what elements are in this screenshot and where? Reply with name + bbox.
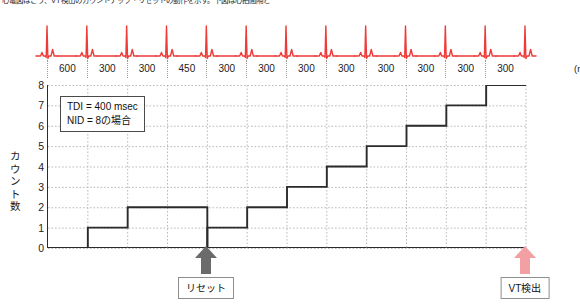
figure-caption: 心電図はこう、VT検出のカウントアップ・リセットの動作を示す。下図は心拍間隔と — [2, 0, 432, 7]
annotation-line: NID = 8の場合 — [67, 114, 138, 128]
interval-label: 300 — [406, 60, 446, 78]
up-arrow-icon — [194, 246, 218, 274]
interval-label: 300 — [326, 60, 366, 78]
interval-label: 300 — [366, 60, 406, 78]
y-tick-label: 3 — [22, 182, 44, 192]
y-tick-label: 8 — [22, 80, 44, 90]
y-axis-title: カウント数 — [8, 150, 22, 213]
interval-label-row: 600300300450300300300300300300300300(mse… — [47, 60, 525, 78]
interval-label: 300 — [87, 60, 127, 78]
y-tick-label: 7 — [22, 100, 44, 110]
interval-label: 300 — [445, 60, 485, 78]
interval-unit-label: (msec) — [574, 60, 580, 78]
ecg-beat — [76, 26, 98, 59]
interval-label: 300 — [485, 60, 525, 78]
figure-root: 心電図はこう、VT検出のカウントアップ・リセットの動作を示す。下図は心拍間隔と … — [0, 0, 580, 306]
marker-reset-arrow — [194, 246, 218, 278]
annotation-line: TDI = 400 msec — [67, 100, 138, 114]
ecg-beat — [434, 26, 456, 59]
ecg-beat — [235, 26, 257, 59]
y-tick-label: 0 — [22, 243, 44, 253]
interval-label: 300 — [127, 60, 167, 78]
ecg-beat — [275, 26, 297, 59]
y-tick-label: 4 — [22, 162, 44, 172]
ecg-waveform — [0, 12, 580, 60]
y-tick-label: 5 — [22, 141, 44, 151]
tdi-nid-annotation: TDI = 400 msecNID = 8の場合 — [60, 96, 145, 132]
interval-label: 300 — [246, 60, 286, 78]
count-step-line — [88, 207, 208, 248]
marker-vt-detect-label: VT検出 — [501, 277, 550, 299]
y-tick-label: 2 — [22, 202, 44, 212]
ecg-svg — [0, 12, 580, 60]
ecg-beat — [156, 26, 178, 59]
ecg-beat — [395, 26, 417, 59]
ecg-beat — [195, 26, 217, 59]
ecg-beat — [116, 26, 138, 59]
ecg-beat — [36, 26, 58, 59]
ecg-beat — [514, 26, 536, 59]
count-step-line — [207, 85, 526, 248]
interval-label: 300 — [286, 60, 326, 78]
y-tick-label: 1 — [22, 223, 44, 233]
ecg-beat — [355, 26, 377, 59]
interval-label: 450 — [167, 60, 207, 78]
interval-label: 600 — [47, 60, 87, 78]
up-arrow-icon — [513, 246, 537, 274]
interval-label: 300 — [206, 60, 246, 78]
marker-reset-label: リセット — [178, 277, 234, 299]
y-tick-label: 6 — [22, 121, 44, 131]
ecg-beat — [474, 26, 496, 59]
marker-vt-detect-arrow — [513, 246, 537, 278]
ecg-beat — [315, 26, 337, 59]
